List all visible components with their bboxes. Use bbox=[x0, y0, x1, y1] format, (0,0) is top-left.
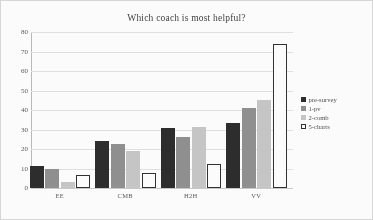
bar[interactable] bbox=[257, 100, 271, 188]
legend-item-label: 1-pv bbox=[309, 105, 321, 112]
y-tick-label: 20 bbox=[4, 145, 28, 153]
bar-chart: Which coach is most helpful? 80706050403… bbox=[0, 0, 373, 220]
y-tick-label: 70 bbox=[4, 48, 28, 56]
legend-item[interactable]: 2-comb bbox=[301, 113, 369, 122]
bar[interactable] bbox=[76, 175, 90, 188]
bar[interactable] bbox=[226, 123, 240, 188]
x-tick-label: EE bbox=[40, 192, 80, 199]
legend-swatch-icon bbox=[301, 115, 306, 120]
gridline bbox=[31, 188, 293, 189]
plot-area: EECMBH2HVV bbox=[31, 32, 293, 188]
y-tick-label: 50 bbox=[4, 87, 28, 95]
legend-item-label: 5-charts bbox=[309, 123, 330, 130]
chart-legend: pre-survey1-pv2-comb5-charts bbox=[301, 95, 369, 132]
bar[interactable] bbox=[45, 169, 59, 189]
legend-item[interactable]: 5-charts bbox=[301, 123, 369, 132]
y-axis-tick-labels: 80706050403020100 bbox=[1, 32, 28, 188]
bar[interactable] bbox=[176, 137, 190, 188]
bar[interactable] bbox=[30, 166, 44, 188]
bar[interactable] bbox=[142, 173, 156, 188]
bar-group bbox=[226, 32, 287, 188]
y-tick-label: 80 bbox=[4, 28, 28, 36]
bar[interactable] bbox=[161, 128, 175, 188]
bar[interactable] bbox=[273, 44, 287, 188]
legend-swatch-icon bbox=[301, 97, 306, 102]
bar-group bbox=[30, 32, 91, 188]
bar-group bbox=[161, 32, 222, 188]
y-tick-label: 10 bbox=[4, 165, 28, 173]
y-tick-label: 60 bbox=[4, 67, 28, 75]
x-tick-label: CMB bbox=[105, 192, 145, 199]
x-tick-label: VV bbox=[236, 192, 276, 199]
legend-item[interactable]: pre-survey bbox=[301, 95, 369, 104]
x-tick-label: H2H bbox=[171, 192, 211, 199]
legend-item-label: pre-survey bbox=[309, 96, 337, 103]
bar[interactable] bbox=[61, 182, 75, 188]
bar[interactable] bbox=[126, 151, 140, 188]
bar[interactable] bbox=[192, 127, 206, 188]
chart-title: Which coach is most helpful? bbox=[1, 13, 372, 23]
bar[interactable] bbox=[95, 141, 109, 188]
legend-item[interactable]: 1-pv bbox=[301, 104, 369, 113]
bar-group bbox=[95, 32, 156, 188]
bar[interactable] bbox=[242, 108, 256, 188]
legend-swatch-icon bbox=[301, 124, 306, 129]
y-tick-label: 40 bbox=[4, 106, 28, 114]
legend-item-label: 2-comb bbox=[309, 114, 329, 121]
bar[interactable] bbox=[207, 164, 221, 188]
legend-swatch-icon bbox=[301, 106, 306, 111]
y-tick-label: 0 bbox=[4, 184, 28, 192]
y-tick-label: 30 bbox=[4, 126, 28, 134]
bar[interactable] bbox=[111, 144, 125, 188]
